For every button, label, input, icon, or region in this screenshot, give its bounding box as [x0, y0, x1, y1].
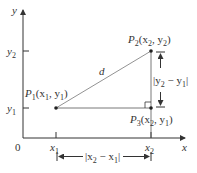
y-axis-label: y [11, 4, 17, 16]
horizontal-measure-label: |x2 − x1| [85, 150, 120, 165]
point-p2 [149, 49, 153, 53]
x2-tick-label: x2 [144, 141, 154, 156]
vertical-measure-label: |y2 − y1| [153, 74, 188, 89]
p2-label: P2(x2, y2) [127, 33, 171, 48]
point-p1 [54, 106, 58, 110]
y2-tick-label: y2 [6, 45, 16, 60]
distance-d-label: d [99, 65, 105, 77]
distance-diagram: y x 0 y2 y1 x1 x2 P1(x1, y1) P2(x2, y2) … [0, 0, 197, 173]
p1-label: P1(x1, y1) [24, 87, 68, 102]
hypotenuse-d [56, 51, 151, 108]
x-axis-label: x [181, 141, 187, 153]
origin-label: 0 [15, 141, 21, 153]
point-p3 [149, 106, 153, 110]
y1-tick-label: y1 [6, 102, 16, 117]
